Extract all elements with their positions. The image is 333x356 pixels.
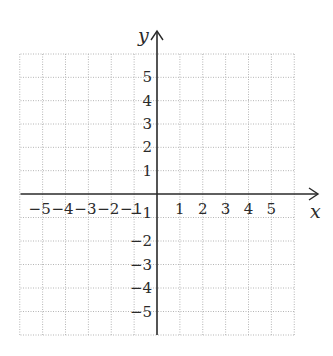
x-tick-labels: −5−4−3−2−112345	[29, 200, 277, 218]
y-tick-label: 3	[142, 115, 152, 133]
x-tick-label: 3	[221, 200, 231, 218]
x-axis-label: x	[310, 200, 321, 222]
y-tick-label: −3	[130, 256, 152, 274]
y-tick-label: −4	[130, 279, 152, 297]
y-tick-label: 1	[142, 162, 152, 180]
x-tick-label: −3	[74, 200, 96, 218]
y-tick-label: −1	[130, 204, 152, 222]
y-axis-label: y	[137, 24, 149, 46]
x-tick-label: −5	[29, 200, 51, 218]
x-tick-label: 2	[198, 200, 208, 218]
x-tick-label: 4	[244, 200, 254, 218]
x-tick-label: 5	[267, 200, 277, 218]
coordinate-plane: x y −5−4−3−2−112345 54321−1−2−3−4−5	[0, 0, 333, 356]
y-tick-label: 2	[142, 138, 152, 156]
y-tick-label: −2	[130, 232, 152, 250]
x-tick-label: −2	[97, 200, 119, 218]
x-tick-label: 1	[175, 200, 185, 218]
y-tick-label: 5	[142, 68, 152, 86]
y-tick-label: 4	[142, 92, 152, 110]
x-tick-label: −4	[51, 200, 73, 218]
y-tick-label: −5	[130, 303, 152, 321]
